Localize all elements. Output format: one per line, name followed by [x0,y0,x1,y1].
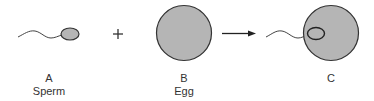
sperm-tail [18,31,62,38]
stage-c-label: C [301,72,361,85]
stage-b-letter: B [154,72,214,85]
arrow-icon [222,31,256,37]
stage-c-letter: C [301,72,361,85]
sperm-figure [18,28,79,40]
stage-b-name: Egg [154,85,214,98]
fertilized-egg-cell [304,6,359,61]
sperm-tail-entering [266,31,308,38]
stage-a-name: Sperm [19,85,79,98]
sperm-head [61,28,79,40]
stage-a-letter: A [19,72,79,85]
plus-sign [113,29,123,39]
egg-cell [157,6,212,61]
stage-b-label: B Egg [154,72,214,98]
fertilized-egg-figure [266,6,359,61]
stage-a-label: A Sperm [19,72,79,98]
